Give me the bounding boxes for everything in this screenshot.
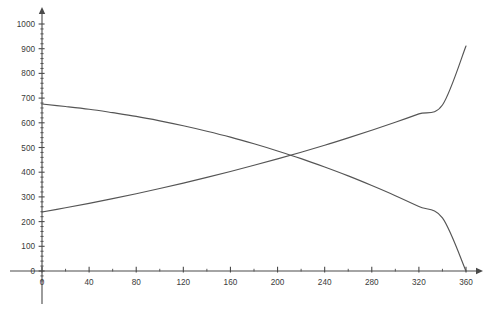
line-chart: 0408012016020024028032036001002003004005… [0,0,493,310]
tick-layer [39,24,466,281]
y-axis-tick-label: 700 [21,94,35,103]
curve-decreasing-curve [42,104,466,271]
y-axis-tick-label: 800 [21,69,35,78]
y-axis-tick-label: 200 [21,218,35,227]
curve-increasing-curve [42,46,466,212]
y-axis-tick-label: 500 [21,144,35,153]
chart-container: 0408012016020024028032036001002003004005… [0,0,493,310]
tick-label-layer: 0408012016020024028032036001002003004005… [17,20,473,287]
x-axis-tick-label: 200 [271,278,285,287]
y-axis-tick-label: 100 [21,242,35,251]
axis-layer [10,7,483,304]
y-axis-tick-label: 0 [30,267,35,276]
x-axis-tick-label: 160 [224,278,238,287]
curve-layer [42,46,466,271]
x-axis-tick-label: 0 [40,278,45,287]
y-axis-tick-label: 400 [21,168,35,177]
x-axis-tick-label: 320 [412,278,426,287]
y-axis-tick-label: 300 [21,193,35,202]
x-axis-tick-label: 80 [132,278,142,287]
x-axis-arrow-icon [476,268,483,274]
x-axis-tick-label: 280 [365,278,379,287]
x-axis-tick-label: 240 [318,278,332,287]
y-axis-tick-label: 1000 [17,20,36,29]
x-axis-tick-label: 40 [85,278,95,287]
x-axis-tick-label: 360 [459,278,473,287]
y-axis-arrow-icon [39,7,45,14]
y-axis-tick-label: 600 [21,119,35,128]
x-axis-tick-label: 120 [176,278,190,287]
y-axis-tick-label: 900 [21,45,35,54]
